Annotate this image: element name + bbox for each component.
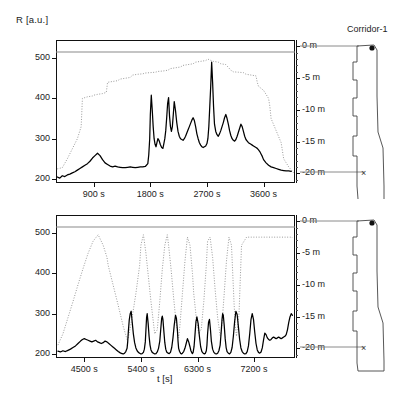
y-tick-label: 400 (20, 92, 50, 102)
x-tick-label: 7200 s (234, 364, 274, 374)
depth-minor-tick-mark (296, 161, 298, 162)
depth-minor-tick-mark (296, 116, 298, 117)
depth-minor-tick-mark (296, 97, 298, 98)
depth-minor-tick-mark (296, 65, 298, 66)
plot-area-top (56, 40, 295, 183)
cross-marker-top: × (361, 168, 366, 178)
y-tick-label: 500 (20, 227, 50, 237)
depth-minor-tick-mark (296, 228, 298, 229)
depth-minor-tick-mark (296, 135, 298, 136)
x-tick-label: 5400 s (121, 364, 161, 374)
y-tick-mark (52, 139, 56, 140)
y-tick-mark (52, 179, 56, 180)
cross-marker-bottom: × (361, 343, 366, 353)
depth-minor-tick-mark (296, 342, 298, 343)
x-tick-mark (141, 358, 142, 362)
depth-minor-tick-mark (296, 59, 298, 60)
depth-minor-tick-mark (296, 148, 298, 149)
borehole-outline-bottom (353, 220, 384, 371)
depth-minor-tick-mark (296, 53, 298, 54)
depth-minor-tick-mark (296, 240, 298, 241)
y-tick-label: 200 (20, 348, 50, 358)
depth-minor-tick-mark (296, 259, 298, 260)
depth-minor-tick-mark (296, 72, 298, 73)
depth-minor-tick-mark (296, 234, 298, 235)
y-tick-label: 200 (20, 173, 50, 183)
x-tick-mark (84, 358, 85, 362)
depth-minor-tick-mark (296, 329, 298, 330)
x-tick-mark (150, 183, 151, 187)
depth-minor-tick-mark (296, 104, 298, 105)
corridor-title: Corridor-1 (347, 24, 388, 34)
depth-minor-tick-mark (296, 167, 298, 168)
depth-minor-tick-mark (296, 291, 298, 292)
figure-root: R [a.u.] 200300400500 900 s1800 s2700 s3… (0, 0, 398, 400)
x-axis-label: t [s] (157, 373, 172, 384)
y-tick-mark (52, 314, 56, 315)
y-tick-mark (52, 233, 56, 234)
y-tick-mark (52, 58, 56, 59)
depth-profile-trace-bottom (58, 235, 293, 345)
depth-minor-tick-mark (296, 355, 298, 356)
x-tick-mark (264, 183, 265, 187)
y-tick-label: 300 (20, 308, 50, 318)
sensor-dot-marker-top (369, 45, 374, 50)
y-tick-label: 300 (20, 133, 50, 143)
y-tick-mark (52, 98, 56, 99)
depth-minor-tick-mark (296, 123, 298, 124)
depth-minor-tick-mark (296, 247, 298, 248)
depth-minor-tick-mark (296, 310, 298, 311)
y-tick-label: 400 (20, 267, 50, 277)
x-tick-label: 900 s (74, 189, 114, 199)
y-tick-mark (52, 273, 56, 274)
depth-minor-tick-mark (296, 180, 298, 181)
depth-minor-tick-mark (296, 266, 298, 267)
depth-minor-tick-mark (296, 84, 298, 85)
y-tick-label: 500 (20, 52, 50, 62)
borehole-outline-top (353, 45, 384, 199)
y-tick-mark (52, 354, 56, 355)
sensor-dot-marker-bottom (369, 220, 374, 225)
y-axis-label: R [a.u.] (16, 14, 48, 25)
plot-area-bottom (56, 215, 295, 358)
depth-minor-tick-mark (296, 323, 298, 324)
signal-trace-bottom (58, 311, 293, 354)
x-tick-label: 1800 s (130, 189, 170, 199)
x-tick-mark (207, 183, 208, 187)
x-tick-label: 2700 s (187, 189, 227, 199)
x-tick-label: 6300 s (178, 364, 218, 374)
depth-minor-tick-mark (296, 154, 298, 155)
depth-minor-tick-mark (296, 129, 298, 130)
corridor-diagram-top: × (300, 36, 398, 199)
signal-trace-top (57, 62, 291, 178)
corridor-diagram-bottom: × (300, 211, 398, 376)
depth-minor-tick-mark (296, 336, 298, 337)
x-tick-mark (254, 358, 255, 362)
depth-minor-tick-mark (296, 304, 298, 305)
x-tick-mark (198, 358, 199, 362)
depth-minor-tick-mark (296, 91, 298, 92)
depth-minor-tick-mark (296, 298, 298, 299)
x-tick-mark (94, 183, 95, 187)
x-tick-label: 3600 s (244, 189, 284, 199)
depth-minor-tick-mark (296, 272, 298, 273)
depth-minor-tick-mark (296, 279, 298, 280)
x-tick-label: 4500 s (64, 364, 104, 374)
